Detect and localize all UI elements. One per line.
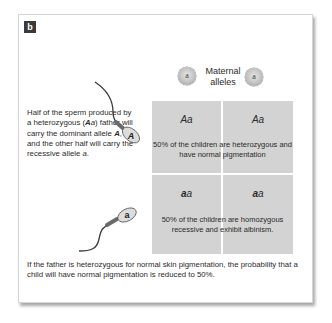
maternal-label-line1: Maternal [202,66,244,77]
maternal-alleles-label: Maternal alleles [202,66,244,88]
maternal-allele-right-label: a [252,72,256,81]
maternal-allele-left-icon: a [178,67,196,85]
genotype-allele-2: a [187,114,193,125]
punnett-cell-top-right: Aa [223,101,293,173]
genotype-label: aa [152,188,221,199]
genotype-allele-2: a [258,188,264,199]
sperm-recessive-icon: a [77,205,149,255]
genotype-label: Aa [223,114,293,125]
genotype-allele-2: a [259,114,265,125]
sperm-dominant-label: A [127,131,135,141]
sperm-dominant-icon: A [89,80,149,145]
desc-part-4: . [87,149,89,158]
genotype-allele-2: a [187,188,193,199]
maternal-allele-right-icon: a [245,68,263,86]
punnett-cell-top-left: Aa [152,101,221,173]
conclusion-text: If the father is heterozygous for normal… [27,260,302,281]
panel-label-badge: b [24,21,36,33]
heterozygous-outcome-text: 50% of the children are heterozygous and… [152,140,293,159]
figure-stage: b a Maternal alleles a Half of the sperm… [0,0,332,323]
maternal-allele-left-label: a [185,71,189,80]
genotype-label: Aa [152,114,221,125]
maternal-label-line2: alleles [202,77,244,88]
genotype-allele-1: A [252,114,259,125]
genotype-label: aa [223,188,293,199]
figure-card: b a Maternal alleles a Half of the sperm… [18,14,313,303]
homozygous-outcome-text: 50% of the children are homozygous reces… [152,215,293,234]
